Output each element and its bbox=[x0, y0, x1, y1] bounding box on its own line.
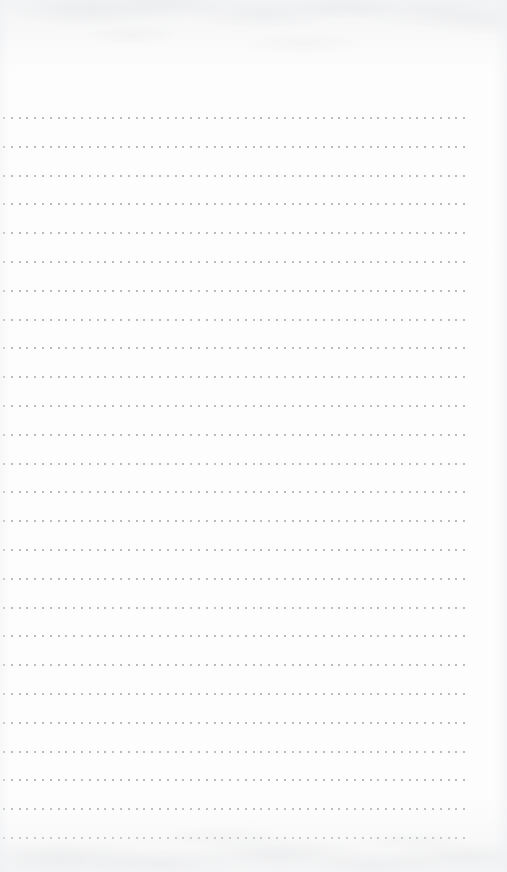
notebook-page bbox=[0, 0, 507, 872]
paper-background bbox=[0, 0, 507, 872]
